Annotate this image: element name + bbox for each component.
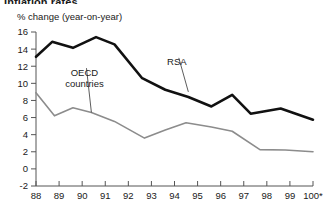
y-tick-label: 8 bbox=[23, 95, 28, 106]
y-tick-label: -2 bbox=[20, 180, 28, 191]
chart-figure: Inflation rates % change (year-on-year) … bbox=[0, 0, 330, 216]
chart-plot-area: -20246810121416 888990919293949596979899… bbox=[0, 0, 330, 216]
x-tick-label: 89 bbox=[54, 190, 65, 201]
y-tick-label: 0 bbox=[23, 163, 28, 174]
x-tick-label: 92 bbox=[123, 190, 134, 201]
x-tick-label: 90 bbox=[77, 190, 88, 201]
x-tick-label: 100* bbox=[303, 190, 323, 201]
x-tick-label: 93 bbox=[146, 190, 157, 201]
series-line bbox=[36, 93, 313, 152]
x-tick-label: 96 bbox=[215, 190, 226, 201]
y-tick-label: 16 bbox=[17, 26, 28, 37]
series-annotation-label: RSA bbox=[167, 56, 187, 67]
data-series-group bbox=[36, 37, 313, 152]
x-tick-label: 98 bbox=[262, 190, 273, 201]
y-tick-label: 14 bbox=[17, 44, 28, 55]
x-tick-label: 95 bbox=[192, 190, 203, 201]
x-tick-label: 97 bbox=[238, 190, 249, 201]
y-tick-label: 2 bbox=[23, 146, 28, 157]
y-tick-label: 12 bbox=[17, 61, 28, 72]
series-annotation-label: OECD bbox=[71, 67, 99, 78]
y-tick-label: 10 bbox=[17, 78, 28, 89]
y-axis-ticks: -20246810121416 bbox=[17, 26, 36, 191]
annotation-group: RSAOECDcountries bbox=[65, 56, 188, 112]
x-tick-label: 88 bbox=[31, 190, 42, 201]
y-tick-label: 4 bbox=[23, 129, 28, 140]
x-tick-label: 94 bbox=[169, 190, 180, 201]
y-tick-label: 6 bbox=[23, 112, 28, 123]
x-axis-ticks: 888990919293949596979899100* bbox=[31, 181, 323, 201]
x-tick-label: 99 bbox=[285, 190, 296, 201]
series-annotation-label: countries bbox=[65, 78, 104, 89]
x-tick-label: 91 bbox=[100, 190, 111, 201]
